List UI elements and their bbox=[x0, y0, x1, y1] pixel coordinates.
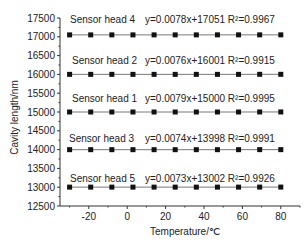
svg-text:13000: 13000 bbox=[27, 182, 55, 193]
svg-text:40: 40 bbox=[198, 211, 210, 222]
svg-text:12500: 12500 bbox=[27, 201, 55, 212]
equation-sensor-4: y=0.0078x+17051 R²=0.9967 bbox=[145, 14, 275, 25]
svg-text:16500: 16500 bbox=[27, 50, 55, 61]
svg-text:17500: 17500 bbox=[27, 13, 55, 24]
svg-text:60: 60 bbox=[237, 211, 249, 222]
series-label-sensor-3: Sensor head 3 bbox=[69, 133, 134, 144]
svg-text:14500: 14500 bbox=[27, 125, 55, 136]
svg-text:17000: 17000 bbox=[27, 31, 55, 42]
series-label-sensor-2: Sensor head 2 bbox=[72, 55, 137, 66]
svg-text:20: 20 bbox=[160, 211, 172, 222]
svg-text:-20: -20 bbox=[82, 211, 97, 222]
equation-sensor-2: y=0.0076x+16001 R²=0.9915 bbox=[145, 55, 275, 66]
equation-sensor-1: y=0.0079x+15000 R²=0.9995 bbox=[145, 93, 275, 104]
svg-text:80: 80 bbox=[275, 211, 287, 222]
svg-text:16000: 16000 bbox=[27, 69, 55, 80]
series-label-sensor-5: Sensor head 5 bbox=[70, 173, 135, 184]
series-label-sensor-4: Sensor head 4 bbox=[70, 14, 135, 25]
svg-text:15000: 15000 bbox=[27, 107, 55, 118]
y-axis-label: Cavity length/nm bbox=[9, 68, 20, 168]
x-axis-label: Temperature/℃ bbox=[150, 226, 220, 237]
svg-text:14000: 14000 bbox=[27, 144, 55, 155]
equation-sensor-5: y=0.0073x+13002 R²=0.9926 bbox=[145, 173, 275, 184]
series-label-sensor-1: Sensor head 1 bbox=[72, 93, 137, 104]
svg-text:13500: 13500 bbox=[27, 163, 55, 174]
plot-area: 1250013000135001400014500150001550016000… bbox=[0, 0, 306, 246]
equation-sensor-3: y=0.0074x+13998 R²=0.9991 bbox=[145, 133, 275, 144]
svg-text:0: 0 bbox=[124, 211, 130, 222]
svg-text:15500: 15500 bbox=[27, 88, 55, 99]
